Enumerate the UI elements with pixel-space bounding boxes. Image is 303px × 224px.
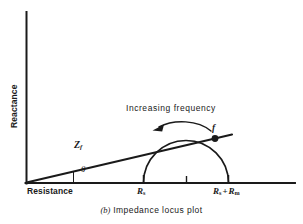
x-axis-label: Resistance	[27, 187, 73, 196]
impedance-vector-label: Zf	[74, 140, 82, 151]
y-axis-label: Reactance	[10, 71, 19, 141]
impedance-vector-subscript: f	[80, 143, 82, 150]
x-tick-label-rs: Rs	[137, 187, 145, 196]
operating-point-f-marker	[212, 135, 219, 142]
caption-number: (b)	[100, 205, 110, 215]
operating-point-f-label: f	[212, 124, 215, 134]
caption-text: Impedance locus plot	[113, 205, 202, 215]
impedance-locus-figure: Reactance Resistance Rs Rs+Rm Zf θ f Inc…	[0, 0, 303, 224]
increasing-frequency-arrow-arc	[159, 122, 211, 131]
increasing-frequency-arrow-head	[153, 125, 165, 132]
x-tick-label-rs-rm: Rs+Rm	[213, 187, 240, 196]
tick-rsrm-subscript2: m	[235, 189, 240, 196]
angle-theta-label: θ	[81, 165, 85, 174]
impedance-vector-line	[27, 135, 233, 183]
tick-rsrm-operator: +	[221, 186, 228, 196]
increasing-frequency-label: Increasing frequency	[126, 104, 216, 113]
tick-rs-subscript: s	[143, 189, 145, 196]
figure-caption: (b) Impedance locus plot	[0, 205, 303, 215]
